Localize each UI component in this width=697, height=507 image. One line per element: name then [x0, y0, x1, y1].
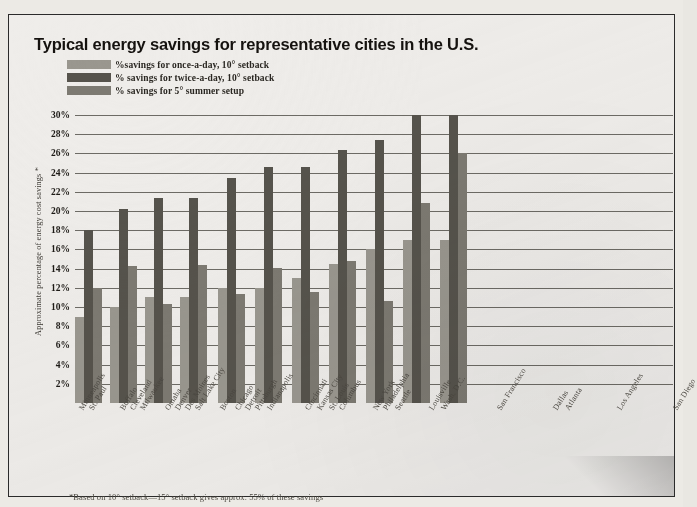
bar — [110, 307, 119, 403]
bar-group — [403, 115, 430, 403]
x-axis-label: San Diego — [671, 377, 697, 412]
bar — [458, 153, 467, 403]
bar — [84, 230, 93, 403]
chart-footnote: *Based on 10° setback—15° setback gives … — [69, 492, 323, 502]
bar-group — [292, 115, 319, 403]
bar — [236, 294, 245, 403]
bar-group — [329, 115, 356, 403]
bar-series-container — [75, 115, 673, 403]
chart-legend: %savings for once-a-day, 10° setback% sa… — [67, 59, 274, 98]
bar-group — [145, 115, 172, 403]
y-axis-tick-label: 12% — [51, 283, 70, 293]
bar-group — [366, 115, 393, 403]
legend-label: % savings for 5° summer setup — [115, 86, 244, 96]
y-axis-tick-label: 30% — [51, 110, 70, 120]
bar-group — [180, 115, 207, 403]
bar — [189, 198, 198, 403]
legend-swatch — [67, 86, 111, 95]
bar — [366, 249, 375, 403]
bar-group — [255, 115, 282, 403]
bar — [227, 178, 236, 403]
bar — [412, 115, 421, 403]
y-axis-tick-label: 18% — [51, 225, 70, 235]
bar — [255, 288, 264, 403]
bar — [421, 203, 430, 403]
bar-group — [440, 115, 467, 403]
chart-frame: Typical energy savings for representativ… — [8, 14, 675, 497]
legend-label: % savings for twice-a-day, 10° setback — [115, 73, 274, 83]
bar — [218, 288, 227, 403]
bar-group — [218, 115, 245, 403]
y-axis-tick-label: 26% — [51, 148, 70, 158]
bar — [449, 115, 458, 403]
bar — [338, 150, 347, 403]
y-axis-tick-label: 24% — [51, 168, 70, 178]
chart-title: Typical energy savings for representativ… — [34, 35, 478, 54]
bar — [301, 167, 310, 403]
bar — [292, 278, 301, 403]
bar — [375, 140, 384, 403]
y-axis-tick-label: 8% — [56, 321, 70, 331]
y-axis-tick-label: 4% — [56, 360, 70, 370]
legend-item: %savings for once-a-day, 10° setback — [67, 59, 274, 70]
x-axis-labels: MinneapolisSt. PaulBuffaloClevelandMilwa… — [75, 405, 673, 500]
bar — [128, 266, 137, 403]
bar — [264, 167, 273, 403]
y-axis-tick-label: 22% — [51, 187, 70, 197]
y-axis-tick-label: 2% — [56, 379, 70, 389]
y-axis-tick-label: 20% — [51, 206, 70, 216]
y-axis-tick-label: 28% — [51, 129, 70, 139]
y-axis-tick-label: 14% — [51, 264, 70, 274]
y-axis-tick-label: 10% — [51, 302, 70, 312]
legend-item: % savings for 5° summer setup — [67, 85, 274, 96]
legend-item: % savings for twice-a-day, 10° setback — [67, 72, 274, 83]
y-axis-title: Approximate percentage of energy cost sa… — [34, 127, 43, 377]
legend-swatch — [67, 73, 111, 82]
y-axis-tick-label: 6% — [56, 340, 70, 350]
legend-swatch — [67, 60, 111, 69]
bar — [154, 198, 163, 403]
bar — [119, 209, 128, 403]
bar — [163, 304, 172, 403]
bar-group — [75, 115, 102, 403]
y-axis-tick-label: 16% — [51, 244, 70, 254]
legend-label: %savings for once-a-day, 10° setback — [115, 60, 269, 70]
bar-group — [110, 115, 137, 403]
bar — [75, 317, 84, 403]
plot-area: 30%28%26%24%22%20%18%16%14%12%10%8%6%4%2… — [75, 115, 673, 403]
